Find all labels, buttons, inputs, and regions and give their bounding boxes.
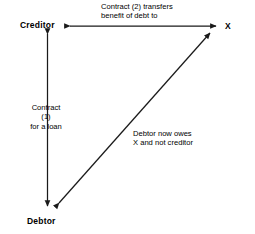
diagram-canvas: Creditor X Debtor Contract (2) transfers…	[0, 0, 255, 234]
edge-label-creditor-debtor: Contract (1) for a loan	[13, 103, 79, 131]
edge-label-debtor-x-line1: Debtor now owes	[133, 129, 193, 138]
node-label-x: X	[225, 21, 231, 31]
edge-debtor-x-line	[59, 33, 210, 203]
edge-label-debtor-x: Debtor now owes X and not creditor	[133, 129, 193, 148]
edge-label-creditor-debtor-line2: (1)	[13, 112, 79, 121]
edge-label-creditor-debtor-line3: for a loan	[13, 122, 79, 131]
node-label-creditor: Creditor	[20, 20, 55, 30]
edge-label-creditor-x: Contract (2) transfers benefit of debt t…	[101, 2, 173, 21]
edge-label-creditor-x-line2: benefit of debt to	[101, 11, 173, 20]
node-label-debtor: Debtor	[27, 216, 56, 226]
edge-label-creditor-debtor-line1: Contract	[13, 103, 79, 112]
edge-label-creditor-x-line1: Contract (2) transfers	[101, 2, 173, 11]
edge-label-debtor-x-line2: X and not creditor	[133, 138, 193, 147]
